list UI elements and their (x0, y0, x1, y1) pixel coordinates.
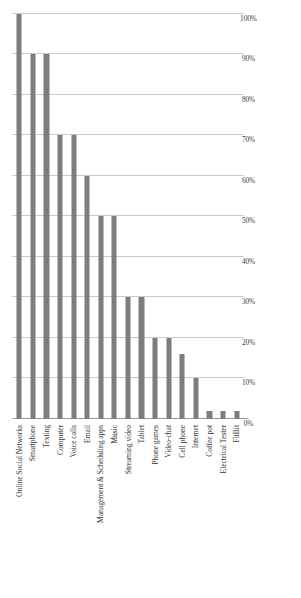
bar (193, 379, 198, 420)
tick-label: 0% (243, 419, 253, 428)
bar (152, 338, 157, 419)
tick-label: 70% (241, 136, 254, 145)
bar-row (111, 14, 116, 419)
tick-label: 10% (241, 379, 254, 388)
bar-row (125, 14, 130, 419)
category-label: Tablet (137, 425, 145, 444)
bar (111, 217, 116, 420)
category-label: Video-chat (164, 425, 172, 458)
category-label: Email (83, 425, 91, 443)
category-label: Texting (42, 425, 50, 448)
category-label: Smartphone (28, 425, 36, 461)
category-label: Voice calls (69, 425, 77, 457)
tick-label: 20% (241, 338, 254, 347)
bar (57, 136, 62, 420)
category-axis-labels: Online Social NetworksSmartphoneTextingC… (12, 422, 243, 598)
bar-row (152, 14, 157, 419)
bar-row (71, 14, 76, 419)
bars-group (12, 14, 243, 419)
bar-row (98, 14, 103, 419)
bar (16, 14, 21, 419)
bar-row (43, 14, 48, 419)
bar-row (206, 14, 211, 419)
tick-label: 50% (241, 217, 254, 226)
bar (138, 298, 143, 420)
bar (71, 136, 76, 420)
category-label: Music (110, 425, 118, 444)
category-label: FitBit (232, 425, 240, 442)
chart-canvas: 0%10%20%30%40%50%60%70%80%90%100% Online… (0, 0, 301, 598)
tick-label: 30% (241, 298, 254, 307)
bar (179, 354, 184, 419)
bar-row (220, 14, 225, 419)
bar (125, 298, 130, 420)
tick-label: 80% (241, 95, 254, 104)
category-label: Electrical Tester (219, 425, 227, 473)
bar (234, 411, 239, 419)
bar-row (234, 14, 239, 419)
category-label: Coffee pot (205, 425, 213, 457)
bar (220, 411, 225, 419)
bar-row (166, 14, 171, 419)
category-label: Phone games (151, 425, 159, 465)
tick-label: 100% (240, 14, 257, 23)
category-label: Management & Scheduling apps (96, 425, 104, 523)
bar (84, 176, 89, 419)
category-label: Online Social Networks (15, 425, 23, 497)
category-label: Cell phone (178, 425, 186, 458)
bar (98, 217, 103, 420)
value-axis-tick-labels: 0%10%20%30%40%50%60%70%80%90%100% (248, 14, 278, 419)
category-label: Computer (56, 425, 64, 455)
tick-label: 40% (241, 257, 254, 266)
category-label: Internet (191, 425, 199, 448)
bar-row (179, 14, 184, 419)
bar (206, 411, 211, 419)
category-label: Streaming video (124, 425, 132, 474)
bar-row (138, 14, 143, 419)
bar (43, 55, 48, 420)
bar (166, 338, 171, 419)
bar-row (16, 14, 21, 419)
bar-row (193, 14, 198, 419)
bar-row (84, 14, 89, 419)
tick-label: 90% (241, 55, 254, 64)
bar-row (57, 14, 62, 419)
plot-wrapper: 0%10%20%30%40%50%60%70%80%90%100% Online… (0, 0, 301, 598)
bar (30, 55, 35, 420)
tick-label: 60% (241, 176, 254, 185)
rotated-chart-stage: 0%10%20%30%40%50%60%70%80%90%100% Online… (0, 0, 301, 598)
bar-row (30, 14, 35, 419)
